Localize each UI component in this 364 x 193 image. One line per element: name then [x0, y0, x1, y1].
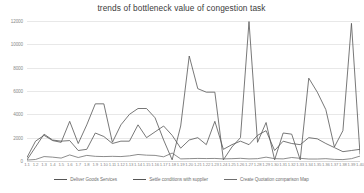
x-axis-tick-label: 1.12 [117, 162, 125, 167]
x-axis: 1.11.21.31.41.51.61.71.81.91.101.111.121… [27, 162, 360, 172]
legend-label: Settle conditions with supplier [149, 177, 208, 182]
legend-item[interactable]: Settle conditions with supplier [133, 177, 208, 182]
x-axis-tick-label: 1.30 [271, 162, 279, 167]
x-axis-tick-label: 1.19 [177, 162, 185, 167]
x-axis-tick-label: 1.5 [58, 162, 64, 167]
x-axis-tick-label: 1.2 [33, 162, 39, 167]
y-axis-tick-label: 4000 [13, 112, 23, 117]
chart-legend: Deliver Goods ServicesSettle conditions … [0, 177, 363, 182]
chart-title: trends of bottleneck value of congestion… [0, 3, 363, 13]
legend-label: Deliver Goods Services [70, 177, 117, 182]
y-axis-tick-label: 12000 [11, 19, 23, 24]
legend-item[interactable]: Deliver Goods Services [54, 177, 117, 182]
x-axis-tick-label: 1.15 [143, 162, 151, 167]
x-axis-tick-label: 1.34 [305, 162, 313, 167]
x-axis-tick-label: 1.8 [84, 162, 90, 167]
legend-item[interactable]: Create Quotation comparison Map [224, 177, 309, 182]
x-axis-tick-label: 1.9 [93, 162, 99, 167]
x-axis-tick-label: 1.36 [322, 162, 330, 167]
x-axis-tick-label: 1.18 [168, 162, 176, 167]
legend-line-icon [133, 179, 146, 180]
x-axis-tick-label: 1.32 [288, 162, 296, 167]
legend-line-icon [224, 179, 237, 180]
x-axis-tick-label: 1.27 [245, 162, 253, 167]
x-axis-tick-label: 1.37 [330, 162, 338, 167]
y-axis-tick-label: 0 [21, 159, 23, 164]
x-axis-tick-label: 1.23 [211, 162, 219, 167]
plot-area [27, 21, 360, 161]
x-axis-tick-label: 1.10 [100, 162, 108, 167]
y-axis: 020004000600080001000012000 [0, 21, 26, 161]
legend-line-icon [54, 179, 67, 180]
x-axis-tick-label: 1.39 [348, 162, 356, 167]
x-axis-tick-label: 1.28 [254, 162, 262, 167]
x-axis-tick-label: 1.35 [313, 162, 321, 167]
x-axis-tick-label: 1.17 [160, 162, 168, 167]
x-axis-tick-label: 1.7 [75, 162, 81, 167]
x-axis-tick-label: 1.16 [151, 162, 159, 167]
y-axis-tick-label: 2000 [13, 135, 23, 140]
y-axis-tick-label: 8000 [13, 65, 23, 70]
x-axis-tick-label: 1.25 [228, 162, 236, 167]
x-axis-tick-label: 1.24 [219, 162, 227, 167]
x-axis-tick-label: 1.20 [185, 162, 193, 167]
x-axis-tick-label: 1.31 [279, 162, 287, 167]
y-axis-tick-label: 10000 [11, 42, 23, 47]
x-axis-tick-label: 1.38 [339, 162, 347, 167]
x-axis-tick-label: 1.33 [296, 162, 304, 167]
x-axis-tick-label: 1.3 [41, 162, 47, 167]
x-axis-tick-label: 1.21 [194, 162, 202, 167]
x-axis-tick-label: 1.11 [109, 162, 116, 167]
x-axis-tick-label: 1.14 [134, 162, 142, 167]
x-axis-tick-label: 1.26 [237, 162, 245, 167]
x-axis-tick-label: 1.4 [50, 162, 56, 167]
x-axis-tick-label: 1.40 [356, 162, 364, 167]
x-axis-tick-label: 1.13 [126, 162, 134, 167]
y-axis-tick-label: 6000 [13, 89, 23, 94]
x-axis-tick-label: 1.29 [262, 162, 270, 167]
x-axis-tick-label: 1.22 [202, 162, 210, 167]
series-line [27, 153, 360, 160]
series-lines [27, 21, 360, 161]
x-axis-tick-label: 1.6 [67, 162, 73, 167]
legend-label: Create Quotation comparison Map [240, 177, 309, 182]
x-axis-tick-label: 1.1 [24, 162, 30, 167]
